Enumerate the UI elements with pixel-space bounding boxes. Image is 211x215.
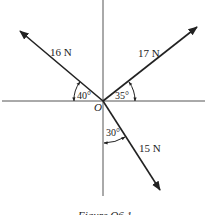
force-17n-label: 17 N	[138, 47, 160, 59]
angle-40-label: 40°	[77, 90, 91, 101]
force-16n-label: 16 N	[50, 46, 72, 58]
force-15n-label: 15 N	[139, 142, 161, 154]
force-diagram: 16 N 40° 17 N 35° 15 N 30° O Figure Q6.1	[0, 0, 211, 215]
angle-30-label: 30°	[106, 127, 120, 138]
angle-35-label: 35°	[115, 90, 129, 101]
origin-label: O	[94, 101, 102, 113]
angle-35-arc-icon	[129, 82, 135, 101]
figure-caption: Figure Q6.1	[77, 209, 132, 215]
